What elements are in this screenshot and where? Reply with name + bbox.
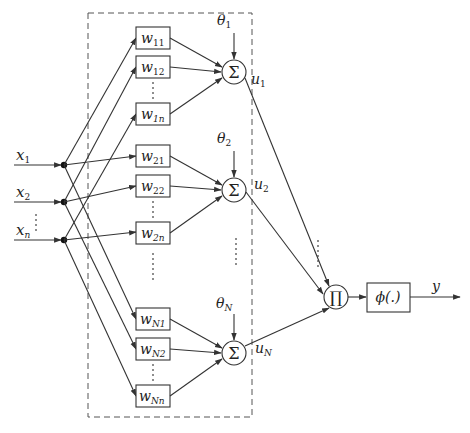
neural-network-diagram: w11 w12 w1n θ1 Σ u1 w21 w22 w2n θ2 Σ u2 <box>0 0 470 433</box>
output-label-u1: u1 <box>251 71 266 89</box>
input-label-x1: x1 <box>16 146 30 165</box>
output-label-u2: u2 <box>254 176 269 194</box>
bias-label-theta2: θ2 <box>217 130 231 148</box>
output-label-y: y <box>431 278 441 294</box>
sigma-symbol: Σ <box>228 344 239 363</box>
sigma-symbol: Σ <box>228 181 239 200</box>
input-to-weight-connections <box>64 38 136 396</box>
neuron-2: w21 w22 w2n θ2 Σ u2 <box>136 130 269 244</box>
activation-label: ϕ(.) <box>376 289 401 305</box>
sum-to-product-connections <box>245 78 329 346</box>
bias-label-theta1: θ1 <box>217 12 231 30</box>
bias-label-thetaN: θN <box>216 295 233 313</box>
input-label-xn: xn <box>16 221 30 240</box>
sigma-symbol: Σ <box>228 63 239 82</box>
input-label-x2: x2 <box>16 183 30 202</box>
neuron-1: w11 w12 w1n θ1 Σ u1 <box>136 12 266 125</box>
output-label-uN: uN <box>255 340 273 358</box>
pi-symbol: ∏ <box>330 288 343 307</box>
